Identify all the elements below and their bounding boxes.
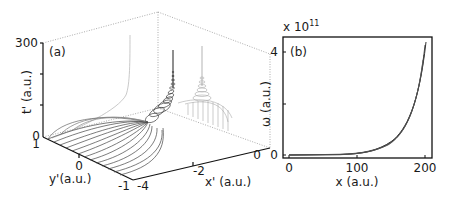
side-projection xyxy=(178,46,232,131)
a-x-tick-m2: -2 xyxy=(193,164,205,178)
a-x-tick-m4: -4 xyxy=(137,179,149,193)
b-y-tick-0: 0 xyxy=(270,148,278,162)
b-x-axis-label: x (a.u.) xyxy=(336,175,379,189)
a-y-tick-0: 0 xyxy=(75,159,83,173)
a-y-tick-m1: -1 xyxy=(118,179,130,193)
panel-b-label: (b) xyxy=(290,45,307,59)
b-ticks xyxy=(283,52,425,158)
b-x-tick-0: 0 xyxy=(285,161,293,175)
b-curve-bundle xyxy=(289,42,426,155)
a-z-axis-label: t' (a.u.) xyxy=(20,70,34,114)
a-x-tick-0: 0 xyxy=(253,148,261,162)
b-y-multiplier: x 1011 xyxy=(283,19,319,34)
b-x-tick-200: 200 xyxy=(414,161,437,175)
a-z-tick-300: 300 xyxy=(15,36,38,50)
panel-b: 4 0 0 100 200 x 1011 ω (a.u.) x (a.u.) (… xyxy=(259,19,436,189)
b-y-tick-4: 4 xyxy=(270,45,278,59)
a-x-axis-label: x' (a.u.) xyxy=(205,175,251,189)
panel-a: 300 0 1 0 -1 -4 -2 0 t' (a.u.) y'(a.u.) … xyxy=(15,12,270,193)
helix-spiral xyxy=(144,50,175,125)
figure: 300 0 1 0 -1 -4 -2 0 t' (a.u.) y'(a.u.) … xyxy=(0,0,455,200)
a-y-axis-label: y'(a.u.) xyxy=(49,172,91,186)
b-y-axis-label: ω (a.u.) xyxy=(259,81,273,127)
a-y-tick-1: 1 xyxy=(32,137,40,151)
b-x-tick-100: 100 xyxy=(346,161,369,175)
panel-a-label: (a) xyxy=(49,45,66,59)
